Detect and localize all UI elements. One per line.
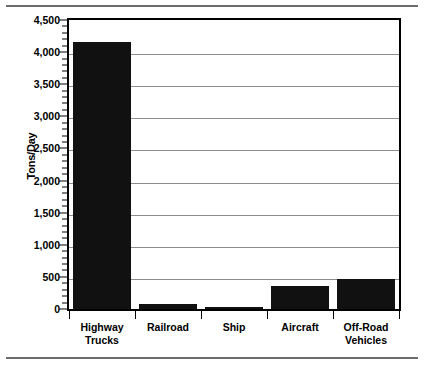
bar xyxy=(271,286,329,309)
x-axis-tick xyxy=(69,311,70,319)
x-axis-category-label: Railroad xyxy=(135,321,201,334)
bar xyxy=(73,42,131,309)
x-axis-category-label: Ship xyxy=(201,321,267,334)
y-axis-tick-label: 500 xyxy=(12,271,60,283)
bar-slot xyxy=(69,20,135,309)
bar-slot xyxy=(333,20,399,309)
x-axis-category-label: Off-Road Vehicles xyxy=(333,321,399,347)
y-axis-tick-label: 1,000 xyxy=(12,239,60,251)
y-axis-tick-label: 0 xyxy=(12,303,60,315)
x-axis-tick xyxy=(135,311,136,319)
bar-slot xyxy=(135,20,201,309)
x-axis-tick xyxy=(267,311,268,319)
bar xyxy=(337,279,395,309)
x-axis-category-labels: Highway TrucksRailroadShipAircraftOff-Ro… xyxy=(67,321,401,355)
x-axis-category-label: Highway Trucks xyxy=(69,321,135,347)
bottom-horizontal-rule xyxy=(6,357,418,359)
y-axis-tick-label: 4,500 xyxy=(12,14,60,26)
x-axis-category-label: Aircraft xyxy=(267,321,333,334)
bar-chart-figure: Tons/Day 05001,0001,5002,0002,5003,0003,… xyxy=(0,0,424,368)
y-axis-tick-label: 1,500 xyxy=(12,207,60,219)
y-axis-tick-label: 4,000 xyxy=(12,46,60,58)
x-axis-tick xyxy=(333,311,334,319)
y-axis-tick-label: 2,000 xyxy=(12,175,60,187)
y-axis-tick-label: 3,500 xyxy=(12,78,60,90)
bar-slot xyxy=(201,20,267,309)
y-axis-tick-label: 3,000 xyxy=(12,110,60,122)
bar xyxy=(205,307,263,309)
y-axis-tick-label: 2,500 xyxy=(12,142,60,154)
x-axis-category-ticks xyxy=(67,311,401,319)
bar-series xyxy=(69,20,399,309)
x-axis-tick xyxy=(201,311,202,319)
y-axis-tick-labels: 05001,0001,5002,0002,5003,0003,5004,0004… xyxy=(8,18,60,311)
bar xyxy=(139,304,197,309)
bar-slot xyxy=(267,20,333,309)
x-axis-tick xyxy=(399,311,400,319)
